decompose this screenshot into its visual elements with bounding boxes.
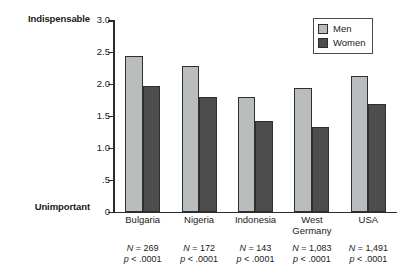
y-axis-tick-mark [108,212,114,214]
category-label: USA [340,215,396,226]
bar-women-usa [368,104,386,211]
y-axis-tick-mark [108,84,114,86]
stat-annotation: N = 1,083p < .0001 [280,243,344,265]
category-label: Bulgaria [115,215,171,226]
stat-annotation: N = 172p < .0001 [167,243,231,265]
stat-annotation: N = 1,491p < .0001 [336,243,400,265]
bar-men-nigeria [182,66,200,212]
bar-group [171,20,227,212]
bar-women-bulgaria [143,86,161,211]
y-axis-tick-label: 1.0 [86,143,110,153]
category-label: West Germany [284,215,340,236]
p-value-text: p < .0001 [280,254,344,265]
bar-group [115,20,171,212]
legend-label: Men [333,24,351,34]
sample-size-text: N = 172 [167,243,231,254]
legend-item-men: Men [318,22,366,36]
legend-swatch-women [318,38,328,48]
sample-size-text: N = 1,491 [336,243,400,254]
bar-men-bulgaria [125,56,143,211]
legend-swatch-men [318,24,328,34]
chart-legend: MenWomen [313,18,373,54]
p-value-text: p < .0001 [336,254,400,265]
y-axis-tick-label: 2.0 [86,79,110,89]
sample-size-text: N = 1,083 [280,243,344,254]
bar-women-indonesia [255,121,273,212]
stat-annotation: N = 143p < .0001 [223,243,287,265]
y-axis-tick-label: 1.5 [86,111,110,121]
y-axis-tick-mark [108,52,114,54]
y-axis-tick-label: 2.5 [86,47,110,57]
axis-bottom-caption: Unimportant [4,201,90,212]
sample-size-text: N = 269 [111,243,175,254]
legend-label: Women [333,38,366,48]
legend-item-women: Women [318,36,366,50]
p-value-text: p < .0001 [223,254,287,265]
y-axis-tick-mark [108,20,114,22]
bar-chart-figure: Indispensable Unimportant 0.51.01.52.02.… [0,0,411,275]
sample-size-text: N = 143 [223,243,287,254]
bar-men-usa [351,76,369,211]
y-axis-tick-mark [108,148,114,150]
x-axis-baseline [113,212,397,214]
y-axis-tick-mark [108,116,114,118]
p-value-text: p < .0001 [167,254,231,265]
bar-women-west-germany [312,127,330,211]
y-axis-tick-label: .5 [86,175,110,185]
bar-women-nigeria [199,97,217,212]
y-axis-tick-label: 3.0 [86,15,110,25]
y-axis-tick-labels: 0.51.01.52.02.53.0 [86,14,110,214]
axis-top-caption: Indispensable [4,13,90,24]
y-axis-tick-label: 0 [86,207,110,217]
y-axis-tick-mark [108,180,114,182]
stat-annotation: N = 269p < .0001 [111,243,175,265]
bar-men-west-germany [294,88,312,211]
category-label: Indonesia [227,215,283,226]
category-label: Nigeria [171,215,227,226]
p-value-text: p < .0001 [111,254,175,265]
bar-men-indonesia [238,97,256,212]
bar-group [227,20,283,212]
